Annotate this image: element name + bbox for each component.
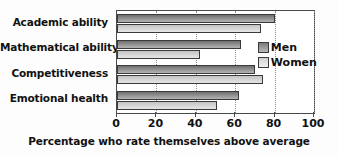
x-axis-title: Percentage who rate themselves above ave… [0, 136, 338, 147]
bar-men-1 [117, 40, 241, 49]
tick-label-80: 80 [254, 118, 294, 129]
category-label-2: Competitiveness [0, 68, 108, 79]
bar-men-0 [117, 14, 275, 23]
bar-women-0 [117, 24, 261, 33]
bar-men-2 [117, 65, 255, 74]
legend-swatch-men-icon [258, 42, 269, 53]
category-label-1: Mathematical ability [0, 42, 108, 53]
legend-label-men: Men [271, 42, 297, 53]
legend-item-men: Men [258, 40, 318, 54]
legend: Men Women [258, 40, 318, 70]
tick-label-60: 60 [214, 118, 254, 129]
category-label-3: Emotional health [0, 93, 108, 104]
bar-men-3 [117, 91, 239, 100]
legend-item-women: Women [258, 55, 318, 69]
category-axis-labels: Academic ability Mathematical ability Co… [0, 10, 112, 112]
tick-label-0: 0 [96, 118, 136, 129]
tick-label-100: 100 [293, 118, 333, 129]
bar-women-1 [117, 50, 200, 59]
category-label-0: Academic ability [0, 17, 108, 28]
legend-label-women: Women [271, 57, 317, 68]
bar-chart: Academic ability Mathematical ability Co… [0, 0, 338, 157]
tick-label-40: 40 [175, 118, 215, 129]
bar-women-2 [117, 75, 263, 84]
tick-label-20: 20 [135, 118, 175, 129]
legend-swatch-women-icon [258, 57, 269, 68]
bar-women-3 [117, 101, 217, 110]
